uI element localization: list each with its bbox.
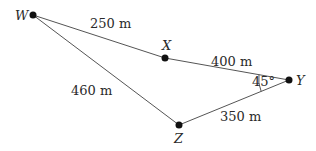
point-y xyxy=(286,77,293,84)
point-label-z: Z xyxy=(173,131,184,146)
point-label-w: W xyxy=(15,8,30,23)
point-x xyxy=(162,55,169,62)
segment-w-z xyxy=(33,15,179,125)
length-label-w-x: 250 m xyxy=(90,16,131,31)
point-label-x: X xyxy=(161,38,172,53)
point-z xyxy=(176,122,183,129)
length-label-w-z: 460 m xyxy=(71,83,112,98)
angle-label-y: 45° xyxy=(252,74,275,89)
point-w xyxy=(30,12,37,19)
triangle-diagram: W X Y Z 250 m 400 m 460 m 350 m 45° xyxy=(0,0,316,151)
point-label-y: Y xyxy=(296,73,306,88)
length-label-x-y: 400 m xyxy=(211,54,252,69)
length-label-z-y: 350 m xyxy=(220,109,261,124)
